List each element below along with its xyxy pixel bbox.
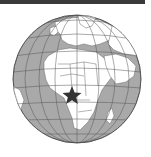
locator-globe: [0, 0, 151, 157]
